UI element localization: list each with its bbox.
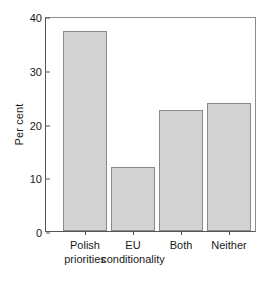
y-tick-mark [46,18,50,19]
x-tick-label-line2: conditionality [90,252,176,266]
y-axis-title: Per cent [12,17,26,232]
x-tick-mark [229,231,230,235]
y-tick-mark [46,179,50,180]
y-tick-mark [46,125,50,126]
bar-neither [207,103,251,231]
y-tick-label: 10 [30,173,42,185]
plot-area: 0 10 20 30 40 [45,17,256,232]
y-tick-label: 40 [30,12,42,24]
bar-polish-priorities [63,31,107,231]
y-tick-mark [46,233,50,234]
bar-eu-conditionality [111,167,155,231]
y-tick-label: 20 [30,120,42,132]
y-tick-mark [46,71,50,72]
x-tick-mark [85,231,86,235]
x-tick-mark [181,231,182,235]
x-tick-label-line1: Neither [211,239,246,251]
bar-chart-figure: Per cent 0 10 20 30 40 Polish priorities… [0,0,272,281]
y-tick-label: 30 [30,66,42,78]
x-tick-label-neither: Neither [186,238,272,252]
bar-both [159,110,203,231]
x-tick-mark [133,231,134,235]
